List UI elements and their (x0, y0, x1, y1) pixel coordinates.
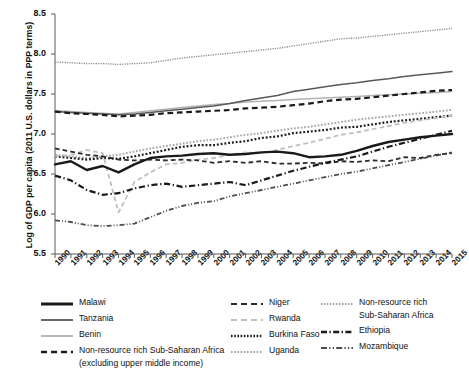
legend-item[interactable]: Burkina Faso (230, 328, 325, 341)
legend-label: Malawi (79, 296, 106, 308)
legend-item[interactable]: Niger (230, 296, 325, 309)
legend-label: Mozambique (359, 340, 408, 352)
legend-item[interactable]: Ethiopia (320, 324, 460, 337)
legend-swatch-icon (230, 344, 264, 356)
legend-label: Benin (79, 328, 101, 340)
series-line (55, 110, 452, 158)
legend-swatch-icon (320, 296, 354, 308)
legend-swatch-icon (40, 312, 74, 324)
legend-item[interactable]: Non-resource rich (320, 296, 460, 309)
legend-label: Burkina Faso (269, 328, 320, 340)
legend-label: Niger (269, 296, 290, 308)
series-line (55, 152, 452, 226)
legend-swatch-icon (320, 340, 354, 352)
chart-legend: MalawiTanzaniaBeninNon-resource rich Sub… (0, 296, 458, 376)
series-line (55, 148, 452, 163)
legend-item[interactable]: Non-resource rich Sub-Saharan Africa (40, 344, 235, 357)
legend-swatch-icon (40, 296, 74, 308)
legend-label: Ethiopia (359, 324, 390, 336)
legend-swatch-icon (40, 344, 74, 356)
legend-label: Non-resource rich Sub-Saharan Africa (79, 344, 224, 356)
series-line (55, 134, 452, 172)
legend-swatch-icon (230, 296, 264, 308)
legend-column: MalawiTanzaniaBeninNon-resource rich Sub… (40, 296, 235, 372)
legend-item[interactable]: Rwanda (230, 312, 325, 325)
series-line (55, 28, 452, 64)
legend-item[interactable]: Mozambique (320, 340, 460, 353)
legend-label-continuation: (excluding upper middle income) (40, 358, 235, 369)
legend-label: Tanzania (79, 312, 113, 324)
legend-swatch-icon (320, 324, 354, 336)
legend-swatch-icon (230, 312, 264, 324)
legend-column: Non-resource richSub-Saharan AfricaEthio… (320, 296, 460, 356)
legend-swatch-icon (40, 328, 74, 340)
legend-swatch-icon (230, 328, 264, 340)
legend-item[interactable]: Benin (40, 328, 235, 341)
legend-label: Non-resource rich (359, 296, 427, 308)
legend-item[interactable]: Uganda (230, 344, 325, 357)
legend-item[interactable]: Tanzania (40, 312, 235, 325)
legend-column: NigerRwandaBurkina FasoUganda (230, 296, 325, 360)
legend-label: Uganda (269, 344, 299, 356)
legend-label-continuation: Sub-Saharan Africa (320, 310, 460, 321)
legend-label: Rwanda (269, 312, 301, 324)
legend-item[interactable]: Malawi (40, 296, 235, 309)
